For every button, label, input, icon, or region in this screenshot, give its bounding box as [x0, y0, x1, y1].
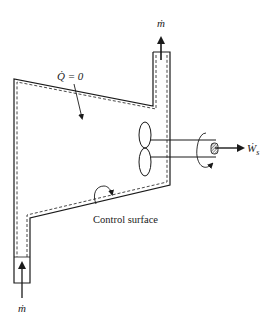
outlet-mass-flow-label: ṁ — [157, 17, 165, 29]
shaft-rotation-arrow — [197, 133, 212, 167]
turbine-blades — [139, 122, 151, 176]
shaft-work-label: Ẇs — [247, 142, 259, 157]
heat-rate-arrow — [74, 84, 82, 118]
shaft — [150, 140, 216, 157]
control-surface-label: Control surface — [93, 214, 158, 225]
heat-rate-label: Q̇ = 0 — [57, 70, 84, 82]
control-volume-diagram: ṁ ṁ Q̇ = 0 Ẇs Control surface — [0, 0, 266, 316]
device-wall — [14, 52, 170, 283]
control-surface-boundary — [17, 55, 167, 257]
inlet-mass-flow-label: ṁ — [18, 302, 26, 314]
